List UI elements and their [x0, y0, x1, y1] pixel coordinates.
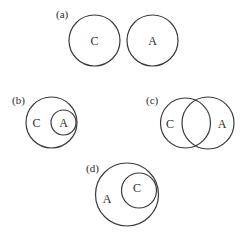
panel-label-a: (a) [56, 8, 69, 21]
panel-label-d: (d) [86, 162, 99, 175]
panel-label-c: (c) [146, 94, 159, 107]
panel-c: (c) C A [146, 94, 234, 149]
set-label-c: C [32, 116, 40, 130]
set-label-c: C [166, 117, 174, 131]
set-label-a: A [218, 117, 227, 131]
set-label-a: A [148, 34, 157, 48]
set-label-a: A [103, 192, 112, 206]
panel-d: (d) A C [86, 162, 159, 226]
panel-label-b: (b) [12, 94, 25, 107]
panel-b: (b) C A [12, 94, 77, 148]
set-label-c: C [133, 181, 141, 195]
set-label-c: C [90, 34, 98, 48]
venn-diagram-figure: (a) C A (b) C A (c) C A (d) A C [0, 0, 244, 238]
panel-a: (a) C A [56, 8, 178, 66]
set-label-a: A [59, 116, 68, 130]
